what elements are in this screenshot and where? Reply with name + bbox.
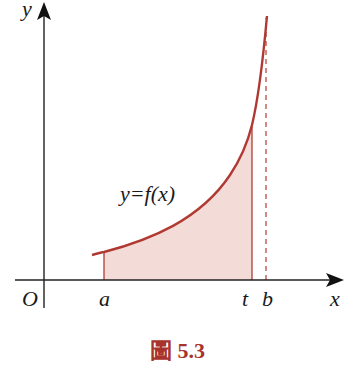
- figure-5-3: y x O a t b y=f(x) 圖 5.3: [0, 0, 354, 377]
- x-axis-label: x: [329, 286, 340, 311]
- y-axis-label: y: [20, 0, 32, 21]
- area-under-curve-diagram: y x O a t b y=f(x) 圖 5.3: [0, 0, 354, 377]
- point-a-label: a: [99, 286, 110, 311]
- figure-caption: 圖 5.3: [150, 338, 205, 363]
- point-b-label: b: [262, 286, 273, 311]
- origin-label: O: [22, 286, 38, 311]
- curve-label: y=f(x): [118, 181, 175, 206]
- point-t-label: t: [242, 286, 249, 311]
